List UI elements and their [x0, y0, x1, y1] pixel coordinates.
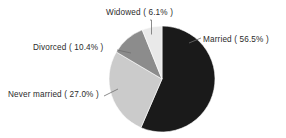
pie-label-divorced: Divorced ( 10.4% )	[33, 44, 104, 52]
pie-chart: Widowed ( 6.1% ) Married ( 56.5% ) Divor…	[0, 0, 286, 138]
pie-label-widowed: Widowed ( 6.1% )	[106, 9, 173, 17]
pie-chart-canvas	[0, 0, 286, 138]
pie-label-never-married: Never married ( 27.0% )	[8, 91, 99, 99]
pie-label-married: Married ( 56.5% )	[203, 36, 269, 44]
